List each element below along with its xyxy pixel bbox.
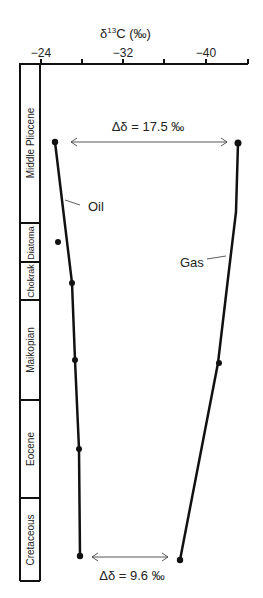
unit-middle-pliocene: Middle Pliocene [25,107,36,178]
tick-label-m24: −24 [31,46,52,60]
gas-series: Gas [177,140,242,564]
delta-top-annotation: Δδ = 17.5 ‰ [71,119,227,146]
isotope-profile-chart: δ13C (‰) −24 −32 −40 Middle [0,0,263,598]
oil-series: Oil [52,139,104,559]
unit-maikopian: Maikopian [25,327,36,373]
tick-label-m40: −40 [196,46,217,60]
unit-chokrak: Chokrak [26,264,36,298]
x-axis-title: δ13C (‰) [100,26,151,41]
gas-label: Gas [180,255,204,270]
delta-bottom-annotation: Δδ = 9.6 ‰ [92,553,168,583]
unit-eocene: Eocene [25,432,36,466]
oil-outlier-point [55,239,61,245]
tick-label-m32: −32 [113,46,134,60]
unit-diatoma: Diatoma [26,226,36,260]
oil-label: Oil [88,199,104,214]
delta-top-label: Δδ = 17.5 ‰ [112,119,185,134]
unit-cretaceous: Cretaceous [25,514,36,565]
delta-bottom-label: Δδ = 9.6 ‰ [99,568,164,583]
